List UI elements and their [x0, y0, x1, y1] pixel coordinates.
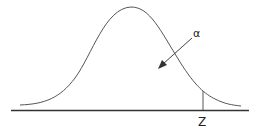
bell-curve — [20, 7, 241, 106]
z-label: Z — [198, 115, 206, 129]
diagram-canvas: α Z — [0, 0, 259, 130]
normal-curve-diagram: α Z — [0, 0, 259, 130]
alpha-label: α — [193, 27, 200, 40]
